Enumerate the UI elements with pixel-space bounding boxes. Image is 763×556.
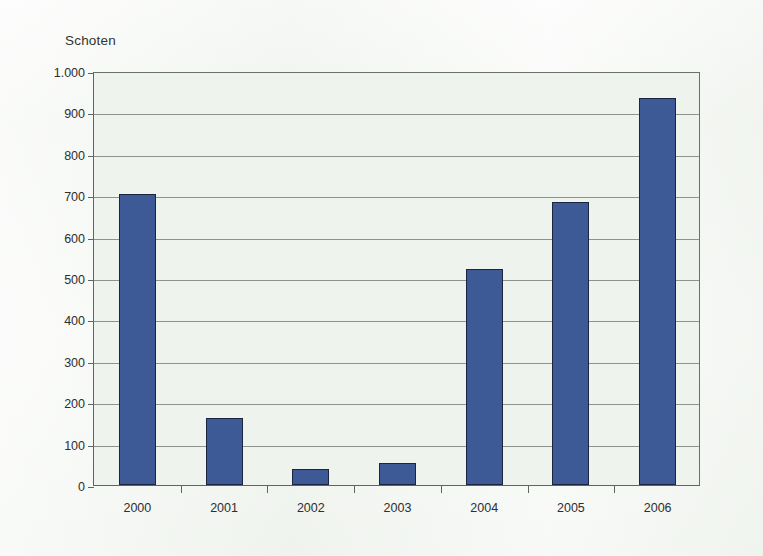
plot-area: 01002003004005006007008009001.000 200020… — [93, 72, 700, 486]
y-axis-tick-mark — [88, 280, 94, 281]
x-axis-tick-label: 2003 — [384, 501, 412, 515]
x-axis-tick-mark — [354, 485, 355, 493]
x-axis-tick-label: 2000 — [123, 501, 151, 515]
bar-2001 — [206, 418, 243, 485]
x-axis-tick-mark — [441, 485, 442, 493]
chart-title: Schoten — [65, 33, 116, 48]
y-axis-tick-mark — [88, 73, 94, 74]
y-axis-tick-mark — [88, 156, 94, 157]
y-axis-tick-mark — [88, 239, 94, 240]
chart-page: Schoten 01002003004005006007008009001.00… — [0, 0, 763, 556]
x-axis-tick-mark — [267, 485, 268, 493]
bar-2002 — [292, 469, 329, 485]
gridline — [94, 239, 699, 240]
y-axis-tick-label: 600 — [64, 232, 85, 246]
x-axis-tick-label: 2002 — [297, 501, 325, 515]
y-axis-tick-label: 200 — [64, 397, 85, 411]
x-axis-tick-label: 2006 — [644, 501, 672, 515]
y-axis-tick-label: 0 — [78, 480, 85, 494]
x-axis-tick-mark — [528, 485, 529, 493]
x-axis-tick-mark — [181, 485, 182, 493]
gridline — [94, 404, 699, 405]
bar-2000 — [119, 194, 156, 485]
gridline — [94, 114, 699, 115]
gridline — [94, 197, 699, 198]
y-axis-tick-label: 1.000 — [54, 66, 85, 80]
y-axis-tick-label: 500 — [64, 273, 85, 287]
y-axis-tick-mark — [88, 321, 94, 322]
y-axis-tick-mark — [88, 114, 94, 115]
x-axis-tick-mark — [614, 485, 615, 493]
bar-2005 — [552, 202, 589, 485]
gridline — [94, 446, 699, 447]
y-axis-tick-mark — [88, 446, 94, 447]
y-axis-tick-mark — [88, 363, 94, 364]
gridline — [94, 156, 699, 157]
y-axis-tick-label: 400 — [64, 314, 85, 328]
y-axis-tick-label: 700 — [64, 190, 85, 204]
gridline — [94, 321, 699, 322]
x-axis-tick-label: 2005 — [557, 501, 585, 515]
y-axis-tick-label: 300 — [64, 356, 85, 370]
y-axis-tick-label: 900 — [64, 107, 85, 121]
x-axis-tick-label: 2001 — [210, 501, 238, 515]
y-axis-tick-label: 800 — [64, 149, 85, 163]
gridline — [94, 363, 699, 364]
y-axis-tick-mark — [88, 404, 94, 405]
x-axis-tick-label: 2004 — [470, 501, 498, 515]
y-axis-tick-label: 100 — [64, 439, 85, 453]
bar-2006 — [639, 98, 676, 485]
bar-2003 — [379, 463, 416, 485]
bar-2004 — [466, 269, 503, 485]
y-axis-tick-mark — [88, 487, 94, 488]
y-axis-tick-mark — [88, 197, 94, 198]
gridline — [94, 280, 699, 281]
